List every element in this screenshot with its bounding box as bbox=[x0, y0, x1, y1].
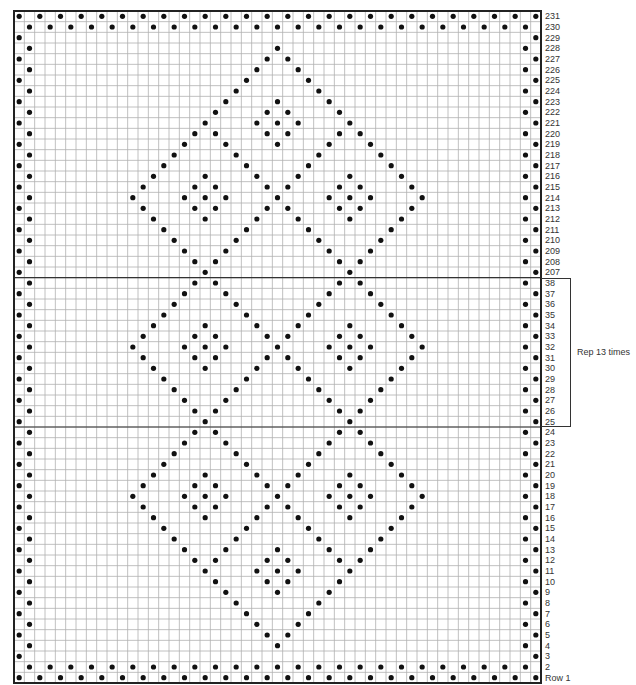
stitch-dot bbox=[254, 67, 259, 72]
stitch-dot bbox=[523, 344, 528, 349]
knitting-chart: 2312302292282272262252242232222212202192… bbox=[0, 0, 636, 685]
stitch-dot bbox=[89, 24, 94, 29]
stitch-dot bbox=[244, 611, 249, 616]
stitch-dot bbox=[378, 387, 383, 392]
stitch-dot bbox=[17, 142, 22, 147]
stitch-dot bbox=[223, 291, 228, 296]
stitch-dot bbox=[265, 483, 270, 488]
stitch-dot bbox=[213, 430, 218, 435]
stitch-dot bbox=[27, 238, 32, 243]
stitch-dot bbox=[17, 462, 22, 467]
stitch-dot bbox=[265, 14, 270, 19]
stitch-dot bbox=[368, 440, 373, 445]
stitch-dot bbox=[275, 643, 280, 648]
row-number-label: 218 bbox=[545, 150, 560, 160]
stitch-dot bbox=[27, 302, 32, 307]
row-number-label: 222 bbox=[545, 107, 560, 117]
stitch-dot bbox=[296, 323, 301, 328]
stitch-dot bbox=[182, 291, 187, 296]
stitch-dot bbox=[358, 664, 363, 669]
stitch-dot bbox=[533, 120, 538, 125]
stitch-dot bbox=[192, 558, 197, 563]
stitch-dot bbox=[306, 611, 311, 616]
stitch-dot bbox=[523, 366, 528, 371]
row-number-label: 214 bbox=[545, 193, 560, 203]
stitch-dot bbox=[337, 259, 342, 264]
stitch-dot bbox=[151, 472, 156, 477]
stitch-dot bbox=[337, 280, 342, 285]
stitch-dot bbox=[533, 398, 538, 403]
stitch-dot bbox=[368, 291, 373, 296]
stitch-dot bbox=[358, 24, 363, 29]
stitch-dot bbox=[389, 163, 394, 168]
row-number-label: 226 bbox=[545, 65, 560, 75]
stitch-dot bbox=[151, 24, 156, 29]
stitch-dot bbox=[130, 494, 135, 499]
stitch-dot bbox=[523, 515, 528, 520]
stitch-dot bbox=[285, 131, 290, 136]
stitch-dot bbox=[275, 99, 280, 104]
stitch-dot bbox=[316, 536, 321, 541]
stitch-dot bbox=[451, 675, 456, 680]
stitch-dot bbox=[523, 408, 528, 413]
stitch-dot bbox=[337, 579, 342, 584]
stitch-dot bbox=[141, 206, 146, 211]
stitch-dot bbox=[533, 632, 538, 637]
stitch-dot bbox=[285, 483, 290, 488]
stitch-dot bbox=[17, 483, 22, 488]
stitch-dot bbox=[337, 558, 342, 563]
stitch-dot bbox=[523, 451, 528, 456]
stitch-dot bbox=[389, 526, 394, 531]
stitch-dot bbox=[523, 387, 528, 392]
stitch-dot bbox=[409, 675, 414, 680]
stitch-dot bbox=[285, 14, 290, 19]
stitch-dot bbox=[79, 675, 84, 680]
stitch-dot bbox=[389, 312, 394, 317]
stitch-dot bbox=[182, 248, 187, 253]
stitch-dot bbox=[533, 99, 538, 104]
stitch-dot bbox=[471, 14, 476, 19]
stitch-dot bbox=[192, 430, 197, 435]
stitch-dot bbox=[27, 131, 32, 136]
stitch-dot bbox=[48, 664, 53, 669]
stitch-dot bbox=[223, 195, 228, 200]
row-number-label: 212 bbox=[545, 214, 560, 224]
stitch-dot bbox=[285, 504, 290, 509]
stitch-dot bbox=[523, 302, 528, 307]
stitch-dot bbox=[347, 216, 352, 221]
stitch-dot bbox=[182, 398, 187, 403]
stitch-dot bbox=[306, 526, 311, 531]
stitch-dot bbox=[327, 99, 332, 104]
stitch-dot bbox=[316, 88, 321, 93]
row-number-label: 230 bbox=[545, 22, 560, 32]
stitch-dot bbox=[161, 14, 166, 19]
row-number-label: 8 bbox=[545, 598, 550, 608]
stitch-dot bbox=[223, 248, 228, 253]
stitch-dot bbox=[275, 664, 280, 669]
row-number-label: 216 bbox=[545, 171, 560, 181]
row-number-label: 217 bbox=[545, 161, 560, 171]
stitch-dot bbox=[17, 270, 22, 275]
stitch-dot bbox=[347, 515, 352, 520]
stitch-dot bbox=[130, 24, 135, 29]
row-number-label: 3 bbox=[545, 651, 550, 661]
stitch-dot bbox=[523, 472, 528, 477]
stitch-dot bbox=[533, 78, 538, 83]
row-number-label: 11 bbox=[545, 566, 554, 576]
stitch-dot bbox=[27, 558, 32, 563]
stitch-dot bbox=[27, 110, 32, 115]
stitch-dot bbox=[27, 259, 32, 264]
stitch-dot bbox=[296, 664, 301, 669]
stitch-dot bbox=[275, 142, 280, 147]
stitch-dot bbox=[533, 654, 538, 659]
row-number-label: 13 bbox=[545, 545, 555, 555]
stitch-dot bbox=[17, 334, 22, 339]
stitch-dot bbox=[275, 590, 280, 595]
stitch-dot bbox=[523, 323, 528, 328]
repeat-bracket bbox=[541, 278, 571, 427]
stitch-dot bbox=[523, 46, 528, 51]
stitch-dot bbox=[306, 462, 311, 467]
stitch-dot bbox=[347, 195, 352, 200]
stitch-dot bbox=[523, 174, 528, 179]
row-number-label: 213 bbox=[545, 203, 560, 213]
